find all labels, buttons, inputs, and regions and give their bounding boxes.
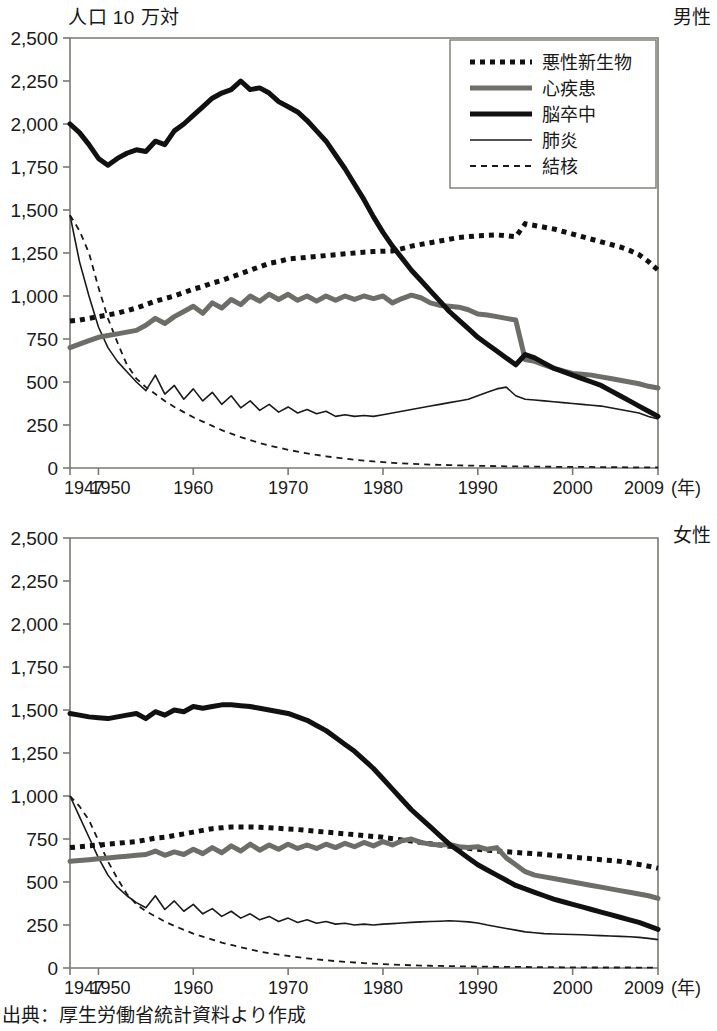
y-axis-tick-label: 0: [47, 958, 58, 979]
x-axis-tick-label: 2000: [553, 478, 593, 498]
series-line-pneumonia: [70, 796, 658, 940]
chart-panel-male: 人口 10 万対 男性 2,5002,2502,0001,7501,5001,2…: [0, 0, 717, 520]
y-axis-tick-label: 1,750: [10, 657, 58, 678]
chart-page: 人口 10 万対 男性 2,5002,2502,0001,7501,5001,2…: [0, 0, 717, 1031]
y-axis-tick-label: 0: [47, 458, 58, 479]
y-axis-tick-label: 750: [26, 329, 58, 350]
x-axis-tick-label: 2009: [624, 978, 664, 998]
chart-panel-female: 女性 2,5002,2502,0001,7501,5001,2501,00075…: [0, 520, 717, 1000]
y-axis-tick-label: 2,250: [10, 71, 58, 92]
x-axis-tick-label: 1960: [173, 478, 213, 498]
y-axis-tick-label: 500: [26, 872, 58, 893]
y-axis-tick-label: 2,000: [10, 114, 58, 135]
x-axis-tick-label: 1950: [90, 478, 130, 498]
y-axis-tick-label: 250: [26, 915, 58, 936]
y-axis-tick-label: 1,000: [10, 786, 58, 807]
x-axis-tick-label: 1990: [458, 978, 498, 998]
source-note: 出典：厚生労働省統計資料より作成: [2, 1000, 306, 1027]
series-line-heart: [70, 839, 658, 898]
series-line-stroke: [70, 705, 658, 929]
y-axis-tick-label: 2,000: [10, 614, 58, 635]
series-line-cancer: [70, 224, 658, 321]
x-axis-unit-label: (年): [671, 478, 701, 498]
y-axis-tick-label: 250: [26, 415, 58, 436]
y-axis-tick-label: 1,000: [10, 286, 58, 307]
x-axis-tick-label: 1980: [363, 978, 403, 998]
chart-svg-female: 2,5002,2502,0001,7501,5001,2501,00075050…: [0, 520, 717, 998]
y-axis-unit-label: 人口 10 万対: [68, 2, 180, 29]
x-axis-tick-label: 1970: [268, 978, 308, 998]
y-axis-tick-label: 2,500: [10, 28, 58, 49]
x-axis-tick-label: 2009: [624, 478, 664, 498]
y-axis-tick-label: 2,500: [10, 528, 58, 549]
x-axis-tick-label: 2000: [553, 978, 593, 998]
series-line-cancer: [70, 827, 658, 868]
y-axis-tick-label: 1,500: [10, 700, 58, 721]
x-axis-unit-label: (年): [671, 978, 701, 998]
x-axis-tick-label: 1990: [458, 478, 498, 498]
y-axis-tick-label: 750: [26, 829, 58, 850]
y-axis-tick-label: 2,250: [10, 571, 58, 592]
panel-title-male: 男性: [673, 2, 711, 29]
y-axis-tick-label: 1,500: [10, 200, 58, 221]
x-axis-tick-label: 1950: [90, 978, 130, 998]
legend-label-tb: 結核: [542, 157, 578, 177]
y-axis-tick-label: 1,750: [10, 157, 58, 178]
legend-label-pneumonia: 肺炎: [542, 131, 578, 151]
y-axis-tick-label: 1,250: [10, 743, 58, 764]
y-axis-tick-label: 500: [26, 372, 58, 393]
legend-label-stroke: 脳卒中: [542, 105, 596, 125]
y-axis-tick-label: 1,250: [10, 243, 58, 264]
x-axis-tick-label: 1960: [173, 978, 213, 998]
x-axis-tick-label: 1970: [268, 478, 308, 498]
chart-svg-male: 2,5002,2502,0001,7501,5001,2501,00075050…: [0, 0, 717, 518]
legend-label-cancer: 悪性新生物: [542, 53, 632, 73]
x-axis-tick-label: 1980: [363, 478, 403, 498]
legend-label-heart: 心疾患: [542, 79, 596, 99]
panel-title-female: 女性: [673, 520, 711, 547]
